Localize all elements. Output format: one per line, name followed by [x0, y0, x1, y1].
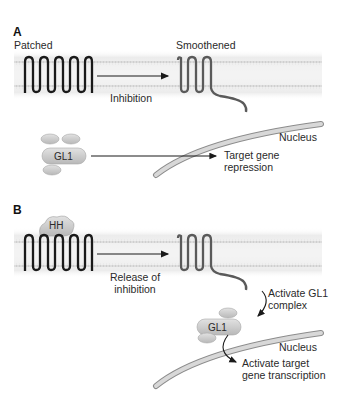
smoothened-label: Smoothened [176, 40, 236, 51]
inhibition-label: Inhibition [110, 93, 152, 104]
inhibition-label-b: inhibition [100, 284, 170, 295]
complex-label: complex [268, 300, 307, 311]
panel-label-a: A [13, 25, 22, 39]
panel-label-b: B [13, 203, 22, 217]
patched-label: Patched [14, 40, 53, 51]
repression-label: repression [224, 162, 273, 173]
nucleus-label-a: Nucleus [279, 132, 317, 143]
hh-label: HH [49, 220, 63, 231]
release-label: Release of [100, 272, 170, 283]
gl1-label-b: GL1 [208, 322, 227, 333]
gene-transcription-label: gene transcription [242, 370, 325, 381]
activate-gl1-arrow [258, 291, 266, 316]
activate-gl1-label: Activate GL1 [268, 288, 328, 299]
activate-target-label: Activate target [242, 358, 309, 369]
hedgehog-pathway-diagram [0, 0, 345, 399]
nucleus-label-b: Nucleus [279, 342, 317, 353]
gl1-label-a: GL1 [54, 151, 73, 162]
target-gene-label: Target gene [224, 150, 279, 161]
